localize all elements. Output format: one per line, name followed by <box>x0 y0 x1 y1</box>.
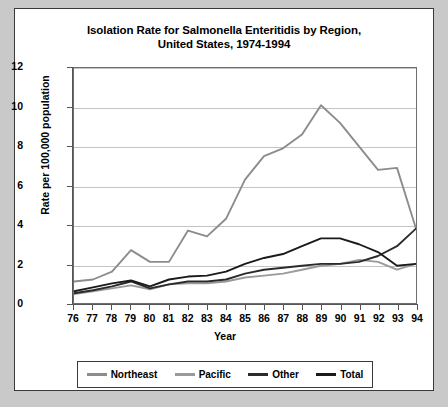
chart-card: Isolation Rate for Salmonella Enteritidi… <box>14 8 434 391</box>
chart-title-line-1: Isolation Rate for Salmonella Enteritidi… <box>15 23 433 37</box>
x-tick-mark <box>188 305 189 310</box>
x-tick-mark <box>169 305 170 310</box>
series-lines <box>74 68 416 303</box>
y-axis-label: Rate per 100,000 population <box>39 45 51 245</box>
x-tick-mark <box>379 305 380 310</box>
legend-swatch-icon <box>248 373 268 376</box>
x-tick-mark <box>245 305 246 310</box>
legend-label: Total <box>340 369 363 380</box>
plot-area <box>73 67 417 304</box>
legend-item-total[interactable]: Total <box>316 369 363 380</box>
y-tick-label: 12 <box>0 60 23 72</box>
y-tick-label: 2 <box>0 258 23 270</box>
legend-label: Northeast <box>111 369 158 380</box>
y-tick-label: 6 <box>0 179 23 191</box>
legend-swatch-icon <box>87 373 107 376</box>
x-tick-label: 94 <box>405 312 429 324</box>
x-tick-mark <box>149 305 150 310</box>
series-line-northeast <box>74 105 416 281</box>
legend-item-pacific[interactable]: Pacific <box>175 369 231 380</box>
x-tick-mark <box>398 305 399 310</box>
x-tick-mark <box>360 305 361 310</box>
chart-title: Isolation Rate for Salmonella Enteritidi… <box>15 23 433 51</box>
legend-label: Pacific <box>199 369 231 380</box>
x-tick-mark <box>321 305 322 310</box>
x-tick-mark <box>92 305 93 310</box>
y-tick-label: 8 <box>0 139 23 151</box>
x-tick-mark <box>130 305 131 310</box>
x-tick-mark <box>73 305 74 310</box>
x-tick-mark <box>226 305 227 310</box>
x-tick-mark <box>207 305 208 310</box>
series-line-pacific <box>74 260 416 294</box>
legend-swatch-icon <box>316 373 336 376</box>
x-axis-label: Year <box>15 330 435 342</box>
x-tick-mark <box>111 305 112 310</box>
x-tick-mark <box>341 305 342 310</box>
legend-item-northeast[interactable]: Northeast <box>87 369 158 380</box>
y-tick-label: 10 <box>0 100 23 112</box>
legend-label: Other <box>272 369 299 380</box>
legend-swatch-icon <box>175 373 195 376</box>
x-tick-mark <box>264 305 265 310</box>
legend-item-other[interactable]: Other <box>248 369 299 380</box>
x-tick-mark <box>417 305 418 310</box>
series-line-other <box>74 229 416 294</box>
chart-page: Isolation Rate for Salmonella Enteritidi… <box>0 0 448 407</box>
chart-title-line-2: United States, 1974-1994 <box>15 37 433 51</box>
y-tick-label: 0 <box>0 297 23 309</box>
x-tick-mark <box>302 305 303 310</box>
chart-legend: NortheastPacificOtherTotal <box>77 361 373 388</box>
y-tick-label: 4 <box>0 218 23 230</box>
x-tick-mark <box>283 305 284 310</box>
